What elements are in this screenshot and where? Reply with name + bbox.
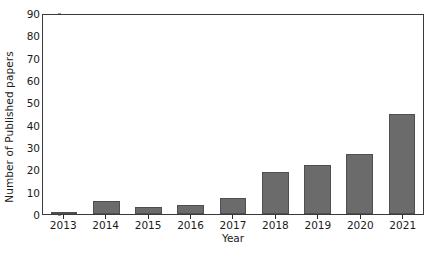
plot-area: [42, 14, 424, 215]
x-axis-tick-mark: [190, 215, 191, 219]
bar-slot: [339, 15, 381, 214]
bar-2018[interactable]: [262, 172, 289, 214]
x-axis-tick-mark: [360, 215, 361, 219]
x-axis-tick-mark: [63, 215, 64, 219]
bar-2020[interactable]: [346, 154, 373, 214]
bar-slot: [43, 15, 85, 214]
x-axis-tick-label: 2015: [135, 219, 162, 231]
x-axis-tick-label: 2016: [177, 219, 204, 231]
y-axis-tick-label: 60: [27, 75, 40, 87]
x-axis-tick-mark: [402, 215, 403, 219]
bar-series: [43, 15, 423, 214]
x-axis-tick-mark: [232, 215, 233, 219]
x-axis-tick-slot: 2017: [212, 215, 254, 233]
x-axis-tick-mark: [148, 215, 149, 219]
x-axis-tick-label: 2014: [92, 219, 119, 231]
y-axis-tick-label: 20: [27, 164, 40, 176]
bar-2014[interactable]: [93, 201, 120, 214]
bar-chart-figure: Number of Published papers 0102030405060…: [0, 0, 440, 254]
x-axis-tick-label: 2018: [262, 219, 289, 231]
y-axis-tick-label: 50: [27, 97, 40, 109]
x-axis-tick-slot: 2013: [42, 215, 84, 233]
bar-slot: [85, 15, 127, 214]
bar-2015[interactable]: [135, 207, 162, 214]
bar-slot: [212, 15, 254, 214]
x-axis-tick-slot: 2015: [127, 215, 169, 233]
bar-2019[interactable]: [304, 165, 331, 214]
bar-slot: [127, 15, 169, 214]
y-axis-tick-label: 10: [27, 187, 40, 199]
x-axis-tick-mark: [275, 215, 276, 219]
x-axis-tick-slot: 2020: [339, 215, 381, 233]
y-axis-tick-labels: 0102030405060708090: [16, 14, 40, 215]
x-axis-tick-label: 2021: [389, 219, 416, 231]
bar-slot: [254, 15, 296, 214]
x-axis-tick-mark: [317, 215, 318, 219]
bar-2016[interactable]: [177, 205, 204, 214]
y-axis-tick-label: 80: [27, 30, 40, 42]
x-axis-tick-slot: 2014: [84, 215, 126, 233]
bar-slot: [170, 15, 212, 214]
bar-2017[interactable]: [220, 198, 247, 214]
y-axis-tick-label: 40: [27, 120, 40, 132]
x-axis-tick-label: 2013: [50, 219, 77, 231]
bar-2013[interactable]: [51, 212, 78, 214]
x-axis-tick-label: 2020: [347, 219, 374, 231]
x-axis-tick-slot: 2016: [169, 215, 211, 233]
y-axis-tick-label: 70: [27, 53, 40, 65]
y-axis-tick-label: 30: [27, 142, 40, 154]
x-axis-tick-label: 2017: [220, 219, 247, 231]
bar-2021[interactable]: [389, 114, 416, 215]
y-axis-tick-label: 0: [33, 209, 40, 221]
x-axis-tick-slot: 2019: [297, 215, 339, 233]
bar-slot: [381, 15, 423, 214]
x-axis-title: Year: [42, 232, 424, 244]
x-axis-tick-slot: 2018: [254, 215, 296, 233]
x-axis-tick-mark: [105, 215, 106, 219]
x-axis-tick-label: 2019: [304, 219, 331, 231]
y-axis-tick-label: 90: [27, 8, 40, 20]
bar-slot: [296, 15, 338, 214]
x-axis-tick-labels: 201320142015201620172018201920202021: [42, 215, 424, 233]
x-axis-tick-slot: 2021: [382, 215, 424, 233]
